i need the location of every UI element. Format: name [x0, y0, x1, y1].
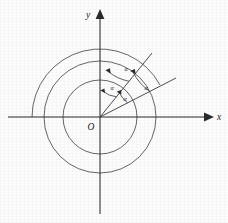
figure-container: y x O α α α α	[0, 0, 228, 223]
angle-alpha-right-arrowhead	[130, 69, 135, 74]
curve-group	[32, 49, 160, 173]
x-axis-label: x	[216, 112, 222, 122]
geometry-canvas: y x O α α α α	[0, 0, 228, 223]
angle-alpha-left-arrowhead	[100, 89, 105, 94]
angle-alpha-left	[100, 89, 116, 97]
x-axis-arrowhead	[204, 113, 214, 122]
angle-alpha-top-arc	[108, 71, 129, 81]
origin-label: O	[88, 122, 95, 132]
angle-alpha-left-label: α	[110, 84, 114, 91]
y-axis-label: y	[85, 10, 91, 20]
angle-alpha-lower-label: α	[123, 95, 127, 102]
angle-alpha-top-arrowhead	[105, 68, 110, 73]
y-axis-arrowhead	[96, 9, 105, 19]
